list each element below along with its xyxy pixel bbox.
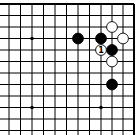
black-stone (107, 79, 118, 90)
black-stone (96, 33, 107, 44)
star-point (30, 106, 34, 110)
star-point (30, 37, 34, 41)
black-stone (73, 33, 84, 44)
go-board: 1 (0, 0, 138, 135)
white-stone: 1 (96, 45, 107, 56)
star-point (99, 106, 103, 110)
move-number-label: 1 (98, 46, 104, 55)
white-stone (107, 56, 118, 67)
white-stone (118, 33, 129, 44)
black-stone (107, 45, 118, 56)
white-stone (107, 22, 118, 33)
